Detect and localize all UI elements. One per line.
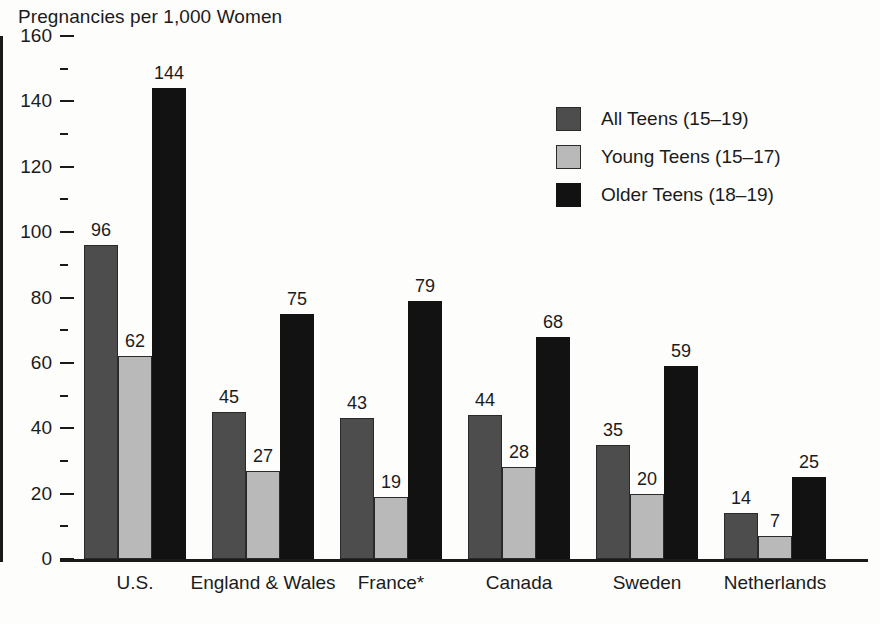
y-axis-major-tick <box>60 427 74 429</box>
bar-value-label: 79 <box>415 276 435 297</box>
bar-value-label: 28 <box>509 442 529 463</box>
bar-value-label: 45 <box>219 387 239 408</box>
bar-value-label: 14 <box>731 488 751 509</box>
x-axis-category-label: France* <box>358 572 425 594</box>
legend-swatch-icon <box>556 145 581 169</box>
y-axis-minor-tick <box>60 68 68 70</box>
y-axis-major-tick <box>60 35 74 37</box>
y-axis-minor-tick <box>60 329 68 331</box>
x-axis-category-label: U.S. <box>117 572 154 594</box>
y-axis-tick-label: 120 <box>20 156 52 178</box>
bar <box>502 467 536 559</box>
bar-value-label: 27 <box>253 446 273 467</box>
y-axis-major-tick <box>60 362 74 364</box>
bar <box>246 471 280 559</box>
x-axis-category-label: Sweden <box>613 572 682 594</box>
y-axis-minor-tick <box>60 460 68 462</box>
y-axis-major-tick <box>60 231 74 233</box>
y-axis-tick-label: 60 <box>31 352 52 374</box>
legend-item-label: Young Teens (15–17) <box>601 146 781 168</box>
bar <box>280 314 314 559</box>
bar <box>118 356 152 559</box>
legend-item: Older Teens (18–19) <box>556 176 781 214</box>
bar-value-label: 25 <box>799 452 819 473</box>
bar <box>536 337 570 559</box>
bar-value-label: 59 <box>671 341 691 362</box>
bar <box>664 366 698 559</box>
bar-value-label: 7 <box>770 511 780 532</box>
bar-value-label: 35 <box>603 420 623 441</box>
bar <box>84 245 118 559</box>
bar-value-label: 20 <box>637 469 657 490</box>
y-axis-major-tick <box>60 558 74 560</box>
y-axis-minor-tick <box>60 133 68 135</box>
bar <box>408 301 442 559</box>
y-axis-minor-tick <box>60 395 68 397</box>
chart-title: Pregnancies per 1,000 Women <box>18 6 282 28</box>
bar <box>596 445 630 559</box>
bar <box>792 477 826 559</box>
chart-container: Pregnancies per 1,000 Women 020406080100… <box>0 0 880 624</box>
legend-swatch-icon <box>556 107 581 131</box>
bar <box>468 415 502 559</box>
bar <box>758 536 792 559</box>
y-axis-major-tick <box>60 100 74 102</box>
y-axis-tick-label: 20 <box>31 483 52 505</box>
y-axis-tick-label: 140 <box>20 90 52 112</box>
x-axis-category-label: Canada <box>486 572 553 594</box>
bar-value-label: 62 <box>125 331 145 352</box>
bar-value-label: 75 <box>287 289 307 310</box>
legend-item: Young Teens (15–17) <box>556 138 781 176</box>
bar-value-label: 43 <box>347 393 367 414</box>
legend-item-label: Older Teens (18–19) <box>601 184 774 206</box>
x-axis-line <box>60 559 868 562</box>
legend-item-label: All Teens (15–19) <box>601 108 749 130</box>
legend-item: All Teens (15–19) <box>556 100 781 138</box>
y-axis-tick-label: 40 <box>31 417 52 439</box>
legend: All Teens (15–19)Young Teens (15–17)Olde… <box>556 100 781 214</box>
bar-value-label: 96 <box>91 220 111 241</box>
y-axis-minor-tick <box>60 198 68 200</box>
bar <box>340 418 374 559</box>
y-axis-tick-label: 160 <box>20 25 52 47</box>
y-axis-major-tick <box>60 493 74 495</box>
bar-value-label: 19 <box>381 472 401 493</box>
y-axis-tick-label: 0 <box>41 548 52 570</box>
y-axis-line <box>0 36 3 562</box>
y-axis-major-tick <box>60 166 74 168</box>
bar <box>630 494 664 559</box>
bar <box>152 88 186 559</box>
legend-swatch-icon <box>556 183 581 207</box>
y-axis-minor-tick <box>60 525 68 527</box>
bar <box>374 497 408 559</box>
bar-value-label: 144 <box>154 63 184 84</box>
bar <box>724 513 758 559</box>
y-axis-minor-tick <box>60 264 68 266</box>
y-axis-major-tick <box>60 297 74 299</box>
y-axis-tick-label: 80 <box>31 287 52 309</box>
x-axis-category-label: Netherlands <box>724 572 826 594</box>
bar-value-label: 44 <box>475 390 495 411</box>
bar <box>212 412 246 559</box>
y-axis-tick-label: 100 <box>20 221 52 243</box>
bar-value-label: 68 <box>543 312 563 333</box>
x-axis-category-label: England & Wales <box>190 572 335 594</box>
